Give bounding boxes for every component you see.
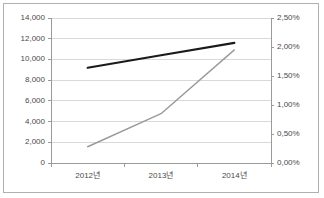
- left-axis-tick-label: 8,000: [4, 76, 45, 84]
- right-axis-tick-label: 0,00%: [277, 159, 323, 167]
- left-axis-tick-label: 2,000: [4, 138, 45, 146]
- left-axis-tick-label: 14,000: [4, 14, 45, 22]
- chart-svg: [4, 4, 320, 194]
- chart-container: 02,0004,0006,0008,00010,00012,00014,0000…: [3, 3, 319, 193]
- left-axis-tick-label: 6,000: [4, 97, 45, 105]
- left-axis-tick-label: 10,000: [4, 55, 45, 63]
- x-axis-category-label: 2012년: [53, 172, 123, 180]
- axis-lines: [51, 18, 271, 163]
- left-axis-tick-label: 4,000: [4, 118, 45, 126]
- right-axis-tick-label: 1,50%: [277, 72, 323, 80]
- right-axis-tick-label: 0,50%: [277, 130, 323, 138]
- right-axis-tick-label: 2,50%: [277, 14, 323, 22]
- tick-marks: [48, 18, 274, 167]
- right-axis-tick-label: 1,00%: [277, 101, 323, 109]
- x-axis-category-label: 2013년: [126, 172, 196, 180]
- left-axis-tick-label: 12,000: [4, 35, 45, 43]
- x-axis-category-label: 2014년: [199, 172, 269, 180]
- left-axis-tick-label: 0: [4, 159, 45, 167]
- data-series: [88, 43, 235, 147]
- gridlines: [51, 18, 271, 163]
- series-line-amount-series: [88, 43, 235, 68]
- plot-area: 02,0004,0006,0008,00010,00012,00014,0000…: [4, 4, 320, 194]
- right-axis-tick-label: 2,00%: [277, 43, 323, 51]
